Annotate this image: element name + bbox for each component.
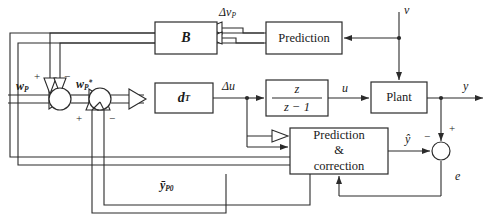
sign-sum1-minus: − [64, 71, 70, 82]
sign-sum2-minus: − [109, 113, 115, 124]
line-ybarp0-outer [92, 110, 226, 213]
signal-label-u: u [342, 82, 348, 94]
node-deltau-branch [245, 96, 249, 100]
block-label-prediction-correction: Prediction & correction [290, 128, 388, 174]
wpstar-base: w [76, 77, 84, 91]
dt-base: d [178, 90, 185, 106]
deltavp-subscript: P [231, 11, 236, 20]
ybarp0-subscript: P0 [165, 184, 173, 193]
signal-label-y-hat: ŷ [405, 133, 410, 145]
signal-label-ybar-p0: ȳP0 [160, 179, 174, 192]
signal-label-delta-u: Δu [222, 80, 235, 92]
sign-sum1-plus: + [34, 71, 40, 82]
arrowhead-into-dt [129, 89, 146, 109]
signal-label-delta-vp: ΔvP [219, 6, 236, 19]
sign-error-minus: − [424, 131, 430, 142]
deltavp-base: Δv [219, 5, 231, 19]
signal-label-wp-star: wP* [76, 78, 92, 91]
block-diagram-canvas: B Prediction dT z z − 1 Plant Prediction… [0, 0, 488, 222]
wpstar-superscript: * [89, 78, 93, 87]
line-deltavp-bottom [222, 38, 266, 43]
block-label-integrator-numerator: z [266, 80, 328, 98]
signal-label-wp: wP [16, 80, 29, 93]
block-label-prediction: Prediction [266, 22, 342, 54]
signal-label-e: e [455, 170, 460, 182]
sign-sum2-plus: + [76, 113, 82, 124]
dt-superscript-t: T [185, 93, 190, 103]
signal-label-v: v [404, 4, 409, 16]
arrowhead-into-predcorr-vector [272, 130, 288, 142]
line-deltavp-top [222, 28, 266, 33]
block-label-dt: dT [155, 83, 213, 113]
wp-subscript: P [24, 85, 29, 94]
wp-base: w [16, 79, 24, 93]
node-v-branch [397, 36, 401, 40]
junction-sum1 [49, 88, 71, 110]
vector-signal-lines [8, 28, 310, 213]
junction-error-sum [432, 142, 450, 160]
block-label-b: B [155, 22, 217, 54]
signal-label-y: y [463, 80, 468, 92]
sign-error-plus: + [449, 123, 455, 134]
junction-sum2 [89, 88, 111, 110]
line-b-out-inner [60, 43, 155, 78]
block-label-integrator-denominator: z − 1 [266, 98, 328, 116]
block-label-plant: Plant [371, 82, 427, 113]
